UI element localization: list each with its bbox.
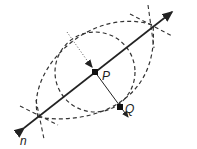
point-p-marker — [92, 69, 98, 75]
tick-mark — [36, 100, 44, 139]
segment-pq — [95, 72, 128, 117]
label-p: P — [102, 69, 110, 83]
dotted-extension — [67, 32, 91, 66]
geometry-diagram: P Q n — [0, 0, 197, 149]
label-q: Q — [125, 102, 134, 116]
point-q-marker — [117, 104, 123, 110]
arrow-to-p — [88, 62, 92, 67]
label-n: n — [20, 134, 27, 148]
